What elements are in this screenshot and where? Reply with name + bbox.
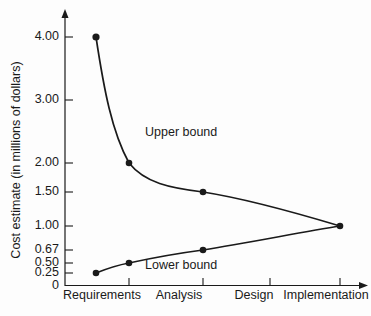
y-tick-label: 0 xyxy=(52,278,59,292)
y-tick-label: 0.25 xyxy=(35,265,59,279)
y-axis-title-text: Cost estimate (in millions of dollars) xyxy=(9,61,23,258)
cost-estimate-chart: Cost estimate (in millions of dollars) 4… xyxy=(0,0,371,316)
data-point-marker xyxy=(200,247,207,254)
y-tick-label: 4.00 xyxy=(35,29,59,43)
y-tick-label: 1.50 xyxy=(35,184,59,198)
x-tick-label-requirements: Requirements xyxy=(63,288,141,302)
data-point-marker xyxy=(126,160,133,167)
data-point-marker xyxy=(93,270,100,277)
annotation-lower-bound: Lower bound xyxy=(145,258,217,272)
x-tick-label-implementation: Implementation xyxy=(283,288,369,302)
y-tick-label: 1.00 xyxy=(35,218,59,232)
data-point-marker xyxy=(92,33,99,40)
data-point-marker xyxy=(126,260,133,267)
x-tick-label-design: Design xyxy=(235,288,274,302)
annotation-upper-bound: Upper bound xyxy=(145,125,217,139)
y-tick-label: 3.00 xyxy=(35,92,59,106)
y-axis-title: Cost estimate (in millions of dollars) xyxy=(9,61,23,258)
y-tick-label: 0.67 xyxy=(35,242,59,256)
chart-canvas: Cost estimate (in millions of dollars) 4… xyxy=(0,0,371,316)
y-tick-label: 2.00 xyxy=(35,155,59,169)
data-point-marker xyxy=(200,189,207,196)
x-tick-label-analysis: Analysis xyxy=(156,288,203,302)
